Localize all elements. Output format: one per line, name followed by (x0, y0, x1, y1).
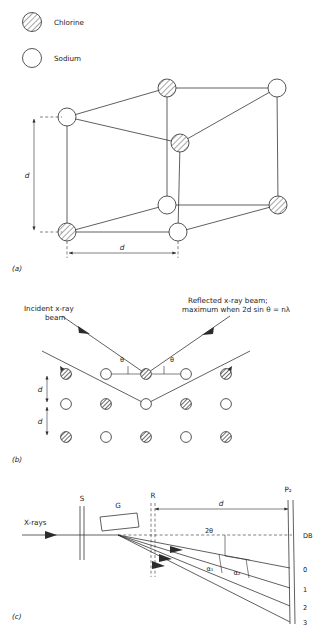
reflected-beam-label-line2: maximum when 2d sin θ = nλ (182, 305, 291, 314)
lattice-atom-sodium (58, 108, 76, 126)
slit-s-label: S (80, 494, 85, 503)
beam-direction-arrow-icon (45, 531, 57, 539)
plate-mark-3: 3 (303, 619, 307, 627)
alpha-1-label: α₁ (207, 565, 214, 573)
lattice-atom-chlorine (58, 223, 76, 241)
legend-item-sodium: Sodium (23, 49, 82, 68)
part-b-bragg-reflection: Incident x-ray beam Reflected x-ray beam… (12, 296, 291, 464)
row-atom-chlorine (61, 369, 72, 380)
row-atom-sodium (61, 399, 72, 410)
incident-beam-label-line2: beam (45, 313, 65, 322)
lattice-atom-sodium (158, 196, 176, 214)
crystal-g-label: G (115, 501, 121, 510)
row-atom-sodium (181, 369, 192, 380)
plate-mark-0: 0 (303, 566, 307, 574)
xray-source-label: X-rays (24, 518, 47, 527)
crystal-g: G (100, 501, 139, 531)
spacing-label-d-upper: d (38, 385, 43, 394)
angle-2theta-marker: 2θ (205, 527, 250, 560)
spacing-lower-d: d (38, 407, 47, 435)
dimension-label-d-vertical: d (25, 171, 30, 180)
reflected-beam-label: Reflected x-ray beam; maximum when 2d si… (182, 296, 291, 314)
xray-source-beam: X-rays (22, 518, 92, 539)
reflected-beam-label-line1: Reflected x-ray beam; (188, 296, 268, 305)
incident-ray-lower (42, 351, 146, 404)
row-atom-sodium (101, 432, 112, 443)
legend-label-sodium: Sodium (54, 54, 81, 63)
angle-label-theta-left: θ (120, 356, 124, 364)
alpha-2-label: α₂ (234, 569, 241, 577)
slit-r-label: R (151, 491, 156, 500)
beam-arrow-icon (152, 561, 165, 569)
plate-mark-2: 2 (303, 604, 307, 612)
lattice-atom-sodium (169, 223, 187, 241)
diffracted-beam-order-0 (118, 535, 290, 568)
diffracted-beam-order-3 (118, 535, 290, 622)
lattice-row-2 (61, 399, 232, 410)
row-atom-chlorine (181, 399, 192, 410)
distance-label-d: d (219, 499, 224, 508)
part-label-b: (b) (12, 455, 22, 464)
lattice-atoms (58, 79, 287, 241)
row-atom-sodium (221, 399, 232, 410)
lattice-atom-chlorine (269, 196, 287, 214)
dimension-label-d-horizontal: d (120, 243, 125, 252)
plate-p2-label: P₂ (284, 485, 291, 494)
spacing-upper-d: d (38, 376, 47, 402)
lattice-atom-chlorine (158, 79, 176, 97)
row-atom-chlorine (221, 369, 232, 380)
angle-2theta-label: 2θ (205, 527, 213, 535)
row-atom-sodium (181, 432, 192, 443)
spacing-label-d-lower: d (38, 417, 43, 426)
row-atom-chlorine (221, 432, 232, 443)
lattice-atom-sodium (268, 79, 286, 97)
part-label-c: (c) (12, 612, 22, 621)
angle-label-theta-right: θ (170, 356, 174, 364)
lattice-row-1 (61, 369, 232, 380)
figure-xray-diffraction: Chlorine Sodium (0, 0, 330, 630)
row-atom-chlorine (141, 432, 152, 443)
legend: Chlorine Sodium (23, 13, 85, 68)
plate-mark-db: DB (303, 532, 313, 540)
incident-ray-arrow-icon (78, 326, 90, 334)
sodium-symbol-icon (23, 49, 42, 68)
lattice-row-3 (61, 432, 232, 443)
legend-label-chlorine: Chlorine (54, 18, 84, 27)
reflected-ray-lower (146, 351, 250, 404)
row-atom-chlorine (101, 399, 112, 410)
figure-canvas: Chlorine Sodium (0, 0, 330, 630)
dimension-vertical-d: d (25, 117, 62, 232)
incident-ray-upper (62, 316, 146, 374)
slit-s: S (80, 494, 85, 560)
part-label-a: (a) (12, 264, 22, 273)
row-atom-sodium (101, 369, 112, 380)
reflected-ray-upper (146, 316, 230, 374)
chlorine-symbol-icon (23, 13, 42, 32)
row-atom-chlorine (141, 369, 152, 380)
row-atom-sodium (141, 399, 152, 410)
diffracted-beam-order-1 (118, 535, 290, 588)
diffracted-beam-order-2 (118, 535, 290, 606)
part-a-crystal-lattice: d d (a) (12, 79, 287, 273)
row-atom-chlorine (61, 432, 72, 443)
legend-item-chlorine: Chlorine (23, 13, 85, 32)
dimension-horizontal-d: d (67, 241, 178, 258)
plate-mark-1: 1 (303, 586, 307, 594)
part-c-spectrometer: X-rays S G R d (12, 485, 313, 627)
lattice-atom-chlorine (171, 134, 189, 152)
distance-d-measure: d (155, 499, 288, 509)
incident-beam-label-line1: Incident x-ray (24, 304, 74, 313)
diffracted-beams (118, 535, 290, 622)
beam-arrow-icon (159, 554, 172, 562)
